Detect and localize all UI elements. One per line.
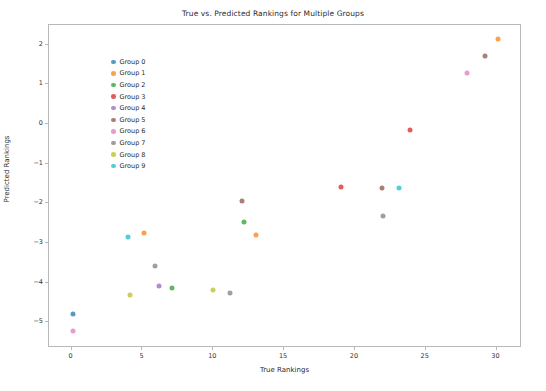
legend-label: Group 4	[120, 104, 146, 112]
y-tick-mark	[45, 123, 48, 124]
data-point	[483, 53, 488, 58]
x-tick-label: 15	[279, 352, 287, 360]
data-point	[127, 292, 132, 297]
x-tick-mark	[283, 347, 284, 350]
legend-marker-icon	[111, 106, 116, 111]
x-tick-mark	[212, 347, 213, 350]
x-tick-label: 25	[421, 352, 429, 360]
legend-item-group-5: Group 5	[106, 114, 146, 126]
legend-marker-icon	[111, 118, 116, 123]
x-tick-mark	[354, 347, 355, 350]
y-axis-label: Predicted Rankings	[3, 99, 11, 239]
y-tick-mark	[45, 163, 48, 164]
data-point	[170, 286, 175, 291]
y-tick-mark	[45, 321, 48, 322]
y-tick-label: −5	[33, 317, 43, 325]
y-tick-mark	[45, 83, 48, 84]
legend-item-group-3: Group 3	[106, 91, 146, 103]
y-tick-label: −3	[33, 238, 43, 246]
data-point	[408, 128, 413, 133]
data-point	[495, 36, 500, 41]
legend-label: Group 7	[120, 139, 146, 147]
data-point	[211, 287, 216, 292]
legend-item-group-0: Group 0	[106, 56, 146, 68]
legend-marker-icon	[111, 94, 116, 99]
legend-marker-icon	[111, 164, 116, 169]
legend-marker-icon	[111, 129, 116, 134]
y-tick-label: −1	[33, 159, 43, 167]
y-tick-label: −2	[33, 198, 43, 206]
legend-marker-icon	[111, 71, 116, 76]
x-axis-label: True Rankings	[48, 366, 521, 374]
legend-label: Group 3	[120, 93, 146, 101]
data-point	[253, 233, 258, 238]
y-tick-label: −4	[33, 278, 43, 286]
y-tick-label: 2	[39, 40, 43, 48]
data-point	[153, 263, 158, 268]
x-tick-label: 5	[139, 352, 143, 360]
y-tick-mark	[45, 242, 48, 243]
legend-label: Group 2	[120, 81, 146, 89]
x-tick-mark	[425, 347, 426, 350]
legend-label: Group 0	[120, 58, 146, 66]
data-point	[157, 283, 162, 288]
plot-axes: Group 0Group 1Group 2Group 3Group 4Group…	[48, 24, 521, 347]
legend-item-group-6: Group 6	[106, 126, 146, 138]
y-tick-mark	[45, 202, 48, 203]
legend-item-group-4: Group 4	[106, 102, 146, 114]
legend-label: Group 5	[120, 116, 146, 124]
y-tick-label: 1	[39, 79, 43, 87]
data-point	[379, 186, 384, 191]
data-point	[381, 214, 386, 219]
legend-item-group-7: Group 7	[106, 137, 146, 149]
y-tick-mark	[45, 282, 48, 283]
legend-marker-icon	[111, 60, 116, 65]
y-tick-mark	[45, 44, 48, 45]
data-point	[239, 199, 244, 204]
x-tick-mark	[496, 347, 497, 350]
legend-item-group-9: Group 9	[106, 160, 146, 172]
legend-label: Group 6	[120, 127, 146, 135]
data-point	[71, 328, 76, 333]
data-point	[126, 235, 131, 240]
legend-marker-icon	[111, 152, 116, 157]
x-tick-label: 10	[208, 352, 216, 360]
scatter-chart-figure: True vs. Predicted Rankings for Multiple…	[0, 0, 546, 391]
data-point	[228, 290, 233, 295]
x-tick-mark	[71, 347, 72, 350]
legend-item-group-8: Group 8	[106, 149, 146, 161]
data-point	[464, 70, 469, 75]
data-point	[396, 186, 401, 191]
chart-title: True vs. Predicted Rankings for Multiple…	[0, 9, 546, 18]
data-point	[71, 311, 76, 316]
x-tick-mark	[141, 347, 142, 350]
legend-item-group-2: Group 2	[106, 79, 146, 91]
x-tick-label: 30	[491, 352, 499, 360]
legend-label: Group 9	[120, 162, 146, 170]
data-point	[338, 185, 343, 190]
legend-marker-icon	[111, 141, 116, 146]
x-tick-label: 20	[350, 352, 358, 360]
data-point	[141, 230, 146, 235]
y-tick-label: 0	[39, 119, 43, 127]
data-point	[242, 220, 247, 225]
x-tick-label: 0	[69, 352, 73, 360]
legend-item-group-1: Group 1	[106, 68, 146, 80]
legend-label: Group 8	[120, 151, 146, 159]
chart-legend: Group 0Group 1Group 2Group 3Group 4Group…	[106, 56, 146, 172]
legend-label: Group 1	[120, 69, 146, 77]
legend-marker-icon	[111, 83, 116, 88]
